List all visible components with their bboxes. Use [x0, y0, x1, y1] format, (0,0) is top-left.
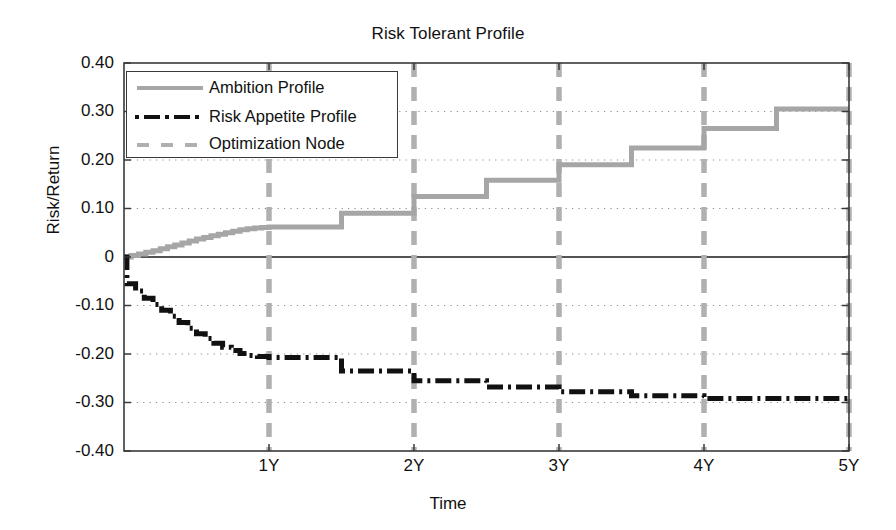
legend-swatch-solid-icon — [133, 76, 207, 100]
legend-item-ambition: Ambition Profile — [127, 73, 399, 102]
legend-label: Risk Appetite Profile — [209, 107, 357, 126]
risk-appetite-profile-line — [124, 257, 849, 400]
legend-swatch-dashed-icon — [133, 132, 207, 156]
chart-figure: Risk Tolerant Profile Risk/Return Time 0… — [0, 0, 896, 530]
legend-item-risk-appetite: Risk Appetite Profile — [127, 102, 399, 131]
legend-label: Optimization Node — [209, 134, 345, 153]
legend-swatch-dashdot-icon — [133, 105, 207, 129]
legend-item-optimization-node: Optimization Node — [127, 129, 399, 158]
legend: Ambition Profile Risk Appetite Profile O… — [126, 71, 398, 158]
legend-label: Ambition Profile — [209, 78, 325, 97]
